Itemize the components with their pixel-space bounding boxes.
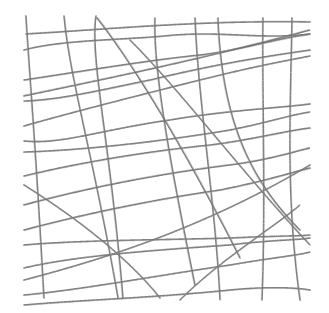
sketch-line [24,168,310,230]
sketch-line-fuzz [181,204,301,299]
sketch-line [180,205,300,300]
sketch-line [24,165,310,280]
sketch-line-fuzz [25,15,43,297]
sketch-line [24,112,310,152]
sketch-line [24,56,310,126]
sketch-line-fuzz [23,57,309,127]
sketch-line-fuzz [25,129,311,177]
sketch-line-fuzz [25,288,311,305]
sketch-line [195,18,220,300]
sketch-line-fuzz [25,169,311,231]
sketch-line-fuzz [291,19,301,301]
sketch-line [26,22,310,34]
sketch-texture-image [0,0,329,313]
line-sketch-drawing [0,0,329,313]
sketch-line-fuzz [23,166,309,281]
